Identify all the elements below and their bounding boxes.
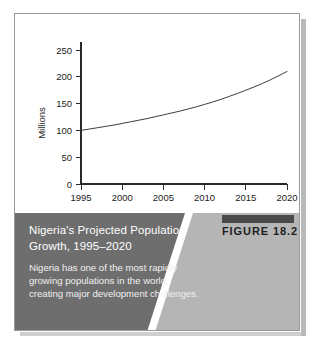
population-line-chart: 050100150200250199520002005201020152020M… bbox=[15, 14, 299, 206]
figure-number-rule bbox=[222, 215, 294, 223]
chart-axes bbox=[81, 42, 287, 184]
y-axis-tick-label: 100 bbox=[56, 125, 72, 136]
x-axis-tick-label: 2000 bbox=[112, 192, 133, 203]
x-axis-tick-label: 1995 bbox=[70, 192, 91, 203]
y-axis-tick-label: 150 bbox=[56, 98, 72, 109]
y-axis-tick-label: 0 bbox=[67, 179, 72, 190]
chart-svg: 050100150200250199520002005201020152020M… bbox=[15, 14, 299, 206]
frame-drop-shadow-bottom bbox=[20, 332, 306, 336]
figure-caption-block: Nigeria's Projected Population Growth, 1… bbox=[15, 213, 299, 331]
caption-title: Nigeria's Projected Population Growth, 1… bbox=[29, 223, 205, 254]
frame-drop-shadow-right bbox=[301, 19, 306, 336]
x-axis-tick-label: 2020 bbox=[276, 192, 297, 203]
caption-text-group: Nigeria's Projected Population Growth, 1… bbox=[29, 223, 205, 301]
x-axis-tick-label: 2010 bbox=[194, 192, 215, 203]
figure-frame: 050100150200250199520002005201020152020M… bbox=[14, 13, 300, 331]
figure-number-label: FIGURE 18.2 bbox=[222, 225, 296, 237]
y-axis-tick-label: 200 bbox=[56, 71, 72, 82]
figure-number-plate: FIGURE 18.2 bbox=[222, 213, 299, 253]
y-axis-tick-label: 50 bbox=[61, 152, 72, 163]
y-axis-tick-label: 250 bbox=[56, 45, 72, 56]
population-projection-line bbox=[81, 71, 287, 130]
x-axis-tick-label: 2005 bbox=[153, 192, 174, 203]
y-axis-title: Millions bbox=[36, 107, 47, 139]
x-axis-tick-label: 2015 bbox=[235, 192, 256, 203]
caption-body-text: Nigeria has one of the most rapidly grow… bbox=[29, 261, 205, 301]
